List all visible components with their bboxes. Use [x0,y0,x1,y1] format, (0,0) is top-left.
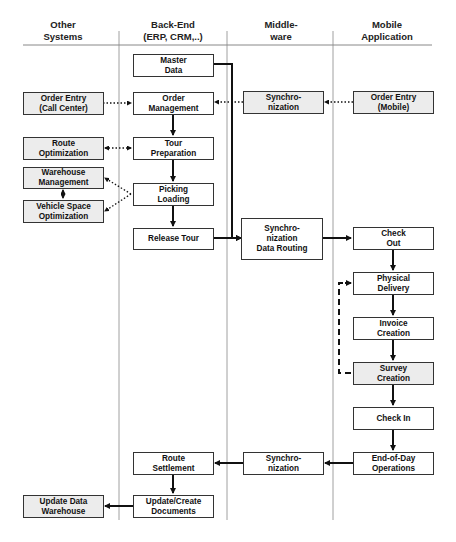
box-route-optimization: Route Optimization [23,137,104,160]
process-diagram: Other Systems Back-End (ERP, CRM,..) Mid… [0,0,456,542]
box-end-of-day-operations: End-of-Day Operations [353,452,434,475]
box-check-out: Check Out [353,227,434,250]
box-synchronization-end: Synchro- nization [243,452,324,475]
box-survey-creation: Survey Creation [353,362,434,385]
column-title-back-end: Back-End (ERP, CRM,..) [119,19,227,43]
column-title-mobile-application: Mobile Application [333,19,441,43]
box-master-data: Master Data [133,54,214,77]
box-synchronization-order: Synchro- nization [243,91,324,114]
box-order-entry-mobile: Order Entry (Mobile) [353,91,434,114]
box-order-management: Order Management [133,92,214,115]
box-update-data-warehouse: Update Data Warehouse [23,495,104,518]
box-picking-loading: Picking Loading [133,183,214,206]
box-release-tour: Release Tour [133,228,214,250]
box-warehouse-management: Warehouse Management [23,167,104,189]
column-title-other-systems: Other Systems [9,19,117,43]
box-update-create-documents: Update/Create Documents [133,495,214,518]
box-tour-preparation: Tour Preparation [133,137,214,160]
box-check-in: Check In [353,407,434,430]
box-physical-delivery: Physical Delivery [353,272,434,295]
box-invoice-creation: Invoice Creation [353,317,434,340]
box-order-entry-call-center: Order Entry (Call Center) [23,92,104,115]
box-synchronization-data-routing: Synchro- nization Data Routing [241,218,323,260]
box-route-settlement: Route Settlement [133,452,214,475]
box-vehicle-space-optimization: Vehicle Space Optimization [23,200,104,223]
column-title-middleware: Middle- ware [227,19,335,43]
